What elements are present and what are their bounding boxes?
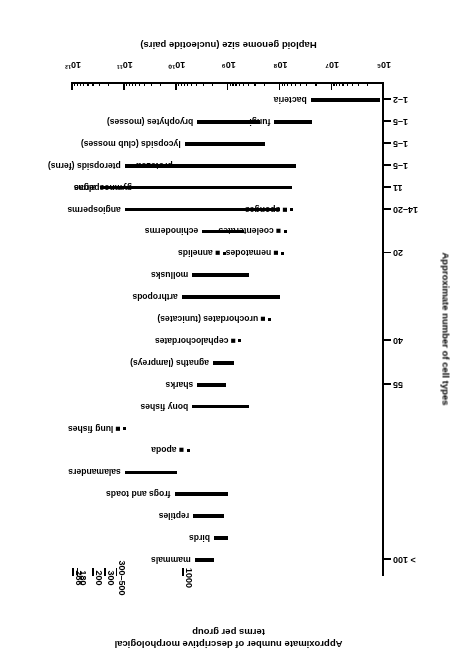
left-tick-label: 1–5 [393,139,408,149]
data-bar [175,493,229,497]
left-tick-label: 20 [393,248,403,258]
data-bar-label: agnaths (lampreys) [130,358,209,368]
data-bar [192,405,249,409]
data-bar-label: arthropods [132,292,177,302]
bottom-tick-minor [291,82,292,86]
bottom-tick-minor [300,82,301,86]
data-bar-label: ■ lung fishes [68,424,121,434]
bottom-tick-minor [132,82,133,86]
bottom-tick-minor [191,82,192,86]
bottom-tick-minor [342,82,343,86]
bottom-tick-label: 10⁸ [273,60,287,70]
bottom-tick-major [331,82,333,90]
bottom-tick-minor [264,82,265,86]
bottom-axis-title: Haploid genome size (nucleotide pairs) [73,40,384,51]
bottom-tick-minor [184,82,185,86]
bottom-tick-minor [254,82,255,86]
bottom-tick-minor [87,82,88,86]
bottom-tick-minor [139,82,140,86]
data-bar-label: ■ cephalochordates [155,336,236,346]
bottom-tick-minor [151,82,152,86]
top-tick-label: 1000 [184,568,194,588]
bottom-tick-minor [243,82,244,86]
data-bar-label: fungi [249,117,270,127]
bottom-tick-major [175,82,177,90]
bottom-tick-minor [160,82,161,86]
data-bar-label: sharks [166,380,194,390]
top-tick-label: 300 [106,570,116,585]
data-bar-label: ■ urochordates (tunicates) [157,314,265,324]
bottom-tick-minor [315,82,316,86]
data-bar [311,98,380,102]
left-tick [384,142,391,144]
bottom-tick-minor [235,82,236,86]
data-bar-label: lycopsids (club mosses) [81,139,181,149]
left-axis-title: Approximate number of cell types [441,252,452,405]
data-bar [195,558,214,562]
bottom-tick-major [71,82,73,90]
bottom-tick-minor [339,82,340,86]
bottom-tick-label: 10⁹ [221,60,235,70]
data-bar [214,536,228,540]
data-bar-label: echinoderms [145,226,199,236]
bottom-tick-minor [358,82,359,86]
left-tick [384,208,391,210]
bottom-tick-minor [282,82,283,86]
data-bar-label: mollusks [151,270,188,280]
bottom-tick-minor [187,82,188,86]
data-bar-label: bony fishes [141,402,189,412]
top-axis-title: Approximate number of descriptive morpho… [73,626,384,650]
data-point [290,208,293,211]
bottom-tick-minor [80,82,81,86]
data-point [281,252,284,255]
data-bar-label: bacteria [274,95,307,105]
top-tick-label: 300–500 [117,560,127,595]
data-bar-label: ■ annelids [178,248,220,258]
left-tick [384,186,391,188]
bottom-tick-minor [287,82,288,86]
bottom-tick-minor [306,82,307,86]
data-point [239,339,242,342]
bottom-tick-label: 10¹² [65,60,81,70]
left-tick [384,558,391,560]
bottom-tick-label: 10¹¹ [117,60,133,70]
left-tick [384,339,391,341]
data-bar-label: frogs and toads [106,489,170,499]
top-tick-label: 266 [74,570,84,585]
bottom-tick-minor [239,82,240,86]
data-bar [185,142,265,146]
bottom-tick-minor [212,82,213,86]
bottom-tick-minor [295,82,296,86]
bottom-tick-minor [144,82,145,86]
data-bar-label: ■ coelenterates [218,226,281,236]
data-bar-label: pteropsids (ferns) [48,161,121,171]
bottom-tick-minor [203,82,204,86]
data-bar-label: ■ nematodes [226,248,279,258]
bottom-tick-label: 10⁶ [377,60,391,70]
bottom-tick-major [227,82,229,90]
bottom-tick-minor [99,82,100,86]
data-bar-label: ■ apoda [151,445,184,455]
data-bar [177,164,296,168]
bottom-tick-major [279,82,281,90]
bottom-tick-minor [77,82,78,86]
data-bar-label: birds [189,533,210,543]
bottom-tick-minor [126,82,127,86]
left-axis-line [382,82,384,576]
data-point [123,427,126,430]
bottom-tick-minor [135,82,136,86]
data-bar-label: bryophytes (mosses) [107,117,193,127]
data-bar-label: ■ sponges [245,205,288,215]
left-tick-label: 11 [393,183,403,193]
bottom-tick-minor [333,82,334,86]
plot-area: 10⁶10⁷10⁸10⁹10¹⁰10¹¹10¹² 1000300–5003002… [73,82,384,576]
data-bar-label: protozoa [136,161,172,171]
bottom-tick-minor [230,82,231,86]
left-tick [384,120,391,122]
bottom-tick-major [123,82,125,90]
top-axis-title-line1: Approximate number of descriptive morpho… [73,638,384,650]
top-tick-label: 200 [94,570,104,585]
data-bar [197,383,226,387]
bottom-tick-minor [367,82,368,86]
